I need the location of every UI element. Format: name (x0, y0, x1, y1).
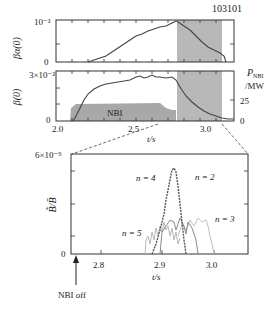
n3-trace (178, 218, 214, 254)
bxtick-2-9: 2.9 (154, 260, 166, 270)
bxtick-3-0: 3.0 (206, 260, 218, 270)
nbi-label: NBI (107, 108, 123, 118)
n3-label: n = 3 (215, 214, 235, 224)
shaded-region-mid (177, 71, 222, 121)
bot-xlabel: t/s (152, 272, 161, 282)
bottom-ticks (71, 171, 248, 254)
shot-number: 103101 (212, 3, 242, 14)
n5-label: n = 5 (122, 228, 142, 238)
mid-ytick-max: 3×10⁻² (29, 70, 55, 80)
pnbi-label: PNBI (246, 67, 263, 79)
figure: 103101 10⁻³ 0 βα(0) NBI 3×10⁻² 0 β(0) P (0, 0, 277, 313)
n4-trace (152, 168, 186, 254)
top-ylabel: βα(0) (11, 36, 23, 60)
top-ytick-max: 10⁻³ (34, 17, 51, 27)
pnbi-tick-0: 0 (240, 116, 245, 126)
mid-ytick-zero: 0 (46, 115, 51, 125)
n4-label: n = 4 (136, 173, 156, 183)
bottom-panel: n = 4 n = 2 n = 5 n = 3 6×10⁻⁹ 0 B̃/B̄ 2… (35, 150, 248, 300)
bottom-axes-frame (71, 154, 248, 254)
bot-ylabel: B̃/B̄ (46, 198, 58, 213)
pnbi-unit: /MW (245, 81, 265, 91)
xlabel: t/s (147, 134, 156, 144)
bot-ytick-zero: 0 (61, 249, 66, 259)
n2-label: n = 2 (195, 172, 215, 182)
nbi-off-arrow-icon (73, 255, 79, 285)
nbi-off-label: NBI off (58, 290, 86, 300)
pnbi-tick-25: 25 (240, 96, 250, 106)
top-panel: 103101 10⁻³ 0 βα(0) (11, 3, 242, 67)
zoom-connectors (72, 124, 248, 154)
bxtick-2-8: 2.8 (93, 260, 105, 270)
top-ytick-zero: 0 (44, 57, 49, 67)
bot-ytick-max: 6×10⁻⁹ (35, 150, 61, 160)
xtick-2-0: 2.0 (52, 124, 64, 134)
middle-panel: NBI 3×10⁻² 0 β(0) PNBI /MW 25 0 2.0 2.5 … (11, 67, 265, 144)
mid-ylabel: β(0) (11, 88, 23, 106)
xtick-3-0: 3.0 (200, 124, 212, 134)
nbi-power-area (70, 103, 176, 121)
